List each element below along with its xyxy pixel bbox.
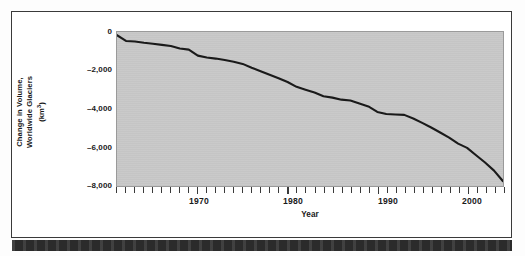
x-tick-1976 <box>251 187 252 193</box>
y-tick-label-0: 0 <box>60 27 112 36</box>
x-tick-2001 <box>477 187 478 193</box>
y-tick-label-2000: –2,000 <box>60 65 112 74</box>
x-tick-1969 <box>188 187 189 193</box>
y-axis-title-line1: Change in Volume, <box>15 77 24 147</box>
x-tick-label-1980: 1980 <box>283 196 303 206</box>
y-axis-title-units: (km3) <box>37 102 46 122</box>
x-tick-1988 <box>360 187 361 193</box>
x-tick-1977 <box>260 187 261 193</box>
page-edge-bar <box>12 240 512 251</box>
x-tick-1993 <box>405 187 406 193</box>
x-tick-1978 <box>269 187 270 193</box>
x-tick-1992 <box>396 187 397 193</box>
y-tick-label-6000: –6,000 <box>60 143 112 152</box>
y-axis-title-line2: Worldwide Glaciers <box>25 75 34 147</box>
plot-area <box>116 31 504 187</box>
x-tick-1967 <box>170 187 171 193</box>
x-tick-2002 <box>486 187 487 193</box>
x-tick-1987 <box>351 187 352 193</box>
x-tick-1970 <box>197 187 198 194</box>
glacier-volume-line-chart <box>117 32 503 186</box>
x-tick-label-1970: 1970 <box>189 196 209 206</box>
data-series-line <box>117 35 503 181</box>
x-tick-1981 <box>296 187 297 193</box>
x-tick-1996 <box>432 187 433 193</box>
x-tick-1973 <box>224 187 225 193</box>
x-tick-1968 <box>179 187 180 193</box>
x-tick-1966 <box>161 187 162 193</box>
x-tick-1997 <box>441 187 442 193</box>
x-tick-1974 <box>233 187 234 193</box>
x-tick-1994 <box>414 187 415 193</box>
x-tick-1972 <box>215 187 216 193</box>
x-tick-1971 <box>206 187 207 193</box>
x-tick-1990 <box>378 187 379 194</box>
x-tick-1964 <box>143 187 144 193</box>
y-tick-label-4000: –4,000 <box>60 104 112 113</box>
x-tick-1982 <box>305 187 306 193</box>
x-tick-1999 <box>459 187 460 193</box>
x-tick-1963 <box>134 187 135 193</box>
x-axis-ticks <box>116 187 504 194</box>
x-tick-1984 <box>324 187 325 193</box>
x-tick-1961 <box>116 187 117 193</box>
x-tick-2003 <box>495 187 496 193</box>
x-tick-label-2000: 2000 <box>462 196 482 206</box>
x-axis-title: Year <box>116 210 504 219</box>
x-tick-1985 <box>333 187 334 193</box>
figure-root: Change in Volume, Worldwide Glaciers (km… <box>0 0 525 256</box>
x-tick-1979 <box>278 187 279 193</box>
x-tick-1980 <box>287 187 288 194</box>
x-tick-1962 <box>125 187 126 193</box>
y-tick-label-8000: –8,000 <box>60 181 112 190</box>
x-tick-1983 <box>315 187 316 193</box>
x-tick-1989 <box>369 187 370 193</box>
x-tick-2000 <box>468 187 469 194</box>
y-axis-title: Change in Volume, Worldwide Glaciers (km… <box>14 34 48 189</box>
y-tick-labels: 0 –2,000 –4,000 –6,000 –8,000 <box>56 0 112 256</box>
x-tick-1975 <box>242 187 243 193</box>
x-tick-1965 <box>152 187 153 193</box>
x-tick-label-1990: 1990 <box>378 196 398 206</box>
x-tick-2004 <box>504 187 505 193</box>
x-tick-1995 <box>423 187 424 193</box>
x-tick-1991 <box>387 187 388 193</box>
x-tick-1986 <box>342 187 343 193</box>
x-tick-1998 <box>450 187 451 193</box>
